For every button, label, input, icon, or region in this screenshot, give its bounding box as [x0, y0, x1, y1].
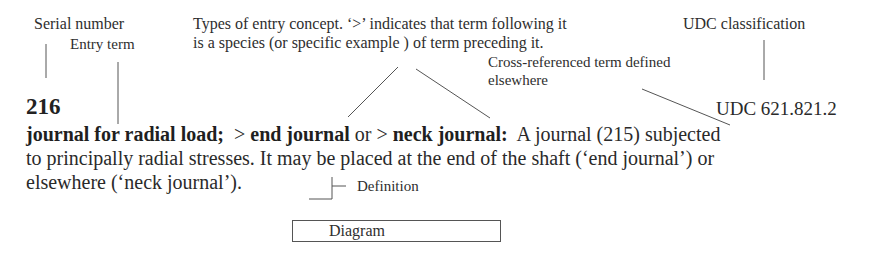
species-term: neck journal:	[393, 123, 508, 145]
species-marker: >	[376, 123, 387, 145]
types-label-line2: is a species (or specific example ) of t…	[193, 33, 544, 52]
diagram-placeholder: Diagram	[292, 220, 501, 242]
cross-ref-label-line2: elsewhere	[488, 71, 548, 89]
udc-code: UDC 621.821.2	[716, 98, 837, 120]
species-marker: >	[234, 123, 245, 145]
entry-term: journal for radial load;	[26, 123, 224, 145]
types-label-line1: Types of entry concept. ‘>’ indicates th…	[193, 14, 567, 33]
cross-ref-label-line1: Cross-referenced term defined	[488, 53, 670, 71]
definition-line-3: elsewhere (‘neck journal’).	[26, 170, 242, 194]
connector-text: or	[355, 123, 372, 145]
diagram-label: Diagram	[329, 221, 385, 241]
serial-number: 216	[26, 94, 61, 120]
definition-text: A journal (215) subjected	[517, 123, 721, 145]
species-term: end journal	[250, 123, 349, 145]
udc-classification-label: UDC classification	[683, 14, 805, 33]
entry-line-1: journal for radial load; > end journal o…	[26, 122, 720, 146]
entry-term-label: Entry term	[70, 35, 135, 53]
serial-number-label: Serial number	[34, 14, 124, 33]
definition-label: Definition	[357, 177, 419, 195]
definition-line-2: to principally radial stresses. It may b…	[26, 146, 714, 170]
